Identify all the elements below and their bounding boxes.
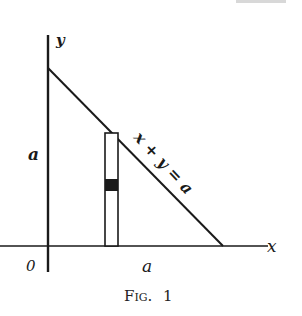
page-edge-artifact — [236, 0, 286, 3]
origin-label: 0 — [26, 257, 36, 275]
caption-number: 1 — [163, 287, 173, 305]
y-axis-label: y — [55, 31, 66, 49]
caption-prefix: Fig. — [124, 287, 152, 305]
figure-canvas: y x 0 a a x + y = a Fig. 1 — [0, 0, 302, 316]
x-axis-label: x — [267, 236, 277, 256]
figure-caption: Fig. 1 — [124, 287, 173, 305]
y-intercept-label: a — [28, 144, 39, 164]
x-intercept-label: a — [142, 256, 152, 276]
line-x-plus-y-equals-a — [48, 68, 223, 246]
shaded-element — [105, 179, 118, 191]
